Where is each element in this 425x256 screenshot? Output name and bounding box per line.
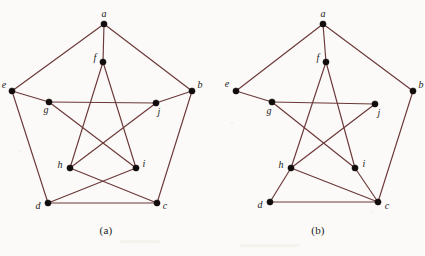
graph-edge-ab: [323, 24, 413, 91]
graph-vertex-label-h: h: [58, 159, 63, 170]
caption-b: (b): [212, 224, 424, 236]
graph-b-edges: [236, 24, 413, 202]
graph-edge-af: [103, 24, 104, 62]
graph-edge-gj: [49, 102, 156, 103]
graph-vertex-label-f: f: [317, 52, 321, 63]
graph-edge-fi: [103, 62, 136, 168]
graph-vertex-label-a: a: [102, 8, 107, 19]
graph-vertex-label-a: a: [321, 8, 326, 19]
graph-vertex-i: [133, 165, 139, 171]
graph-a-vertices: [9, 21, 195, 206]
graph-edge-ae: [12, 24, 104, 91]
graph-vertex-e: [233, 88, 239, 94]
graph-vertex-d: [267, 199, 273, 205]
graph-vertex-label-g: g: [44, 104, 49, 115]
graph-vertex-label-b: b: [198, 79, 203, 90]
graph-vertex-label-j: j: [156, 106, 161, 117]
graph-edge-di: [48, 168, 136, 203]
graph-edge-bc: [378, 91, 413, 202]
graph-a-edges: [12, 24, 192, 203]
graph-edge-ch: [291, 168, 378, 202]
graph-vertex-label-d: d: [36, 200, 42, 211]
graph-edge-ch: [70, 168, 157, 203]
graph-edge-fh: [70, 62, 103, 168]
graph-vertex-b: [189, 88, 195, 94]
graph-vertex-h: [67, 165, 73, 171]
graph-vertex-a: [101, 21, 107, 27]
graph-vertex-b: [410, 88, 416, 94]
graph-vertex-label-c: c: [385, 200, 390, 211]
graph-edge-dh: [270, 168, 291, 202]
figure-page: abcdefghij (a) abcdefghij (b): [0, 0, 425, 256]
graph-edge-ae: [236, 24, 323, 91]
graph-edge-eg: [236, 91, 272, 102]
graph-vertex-label-i: i: [143, 158, 146, 169]
graph-b-drawing: abcdefghij: [212, 0, 424, 226]
graph-vertex-label-e: e: [225, 78, 230, 89]
graph-vertex-label-h: h: [279, 159, 284, 170]
caption-a: (a): [0, 224, 212, 236]
graph-edge-gj: [272, 102, 375, 104]
graph-edge-bc: [157, 91, 192, 203]
graph-a-drawing: abcdefghij: [0, 0, 212, 226]
graph-vertex-f: [100, 59, 106, 65]
graph-vertex-h: [288, 165, 294, 171]
graph-vertex-label-j: j: [376, 107, 381, 118]
graph-vertex-c: [375, 199, 381, 205]
graph-panel-b: abcdefghij (b): [212, 0, 424, 256]
graph-vertex-label-f: f: [94, 52, 98, 63]
graph-vertex-f: [323, 59, 329, 65]
graph-vertex-label-g: g: [267, 105, 272, 116]
graph-vertex-d: [45, 200, 51, 206]
graph-edge-gi: [272, 102, 355, 168]
graph-vertex-label-i: i: [363, 158, 366, 169]
graph-edge-eg: [12, 91, 49, 102]
graph-vertex-a: [320, 21, 326, 27]
graph-vertex-c: [154, 200, 160, 206]
graph-vertex-label-b: b: [419, 79, 424, 90]
graph-edge-af: [323, 24, 326, 62]
graph-edge-bj: [156, 91, 192, 103]
graph-vertex-label-c: c: [163, 200, 168, 211]
graph-vertex-i: [352, 165, 358, 171]
graph-edge-fh: [291, 62, 326, 168]
graph-vertex-e: [9, 88, 15, 94]
graph-edge-fi: [326, 62, 355, 168]
graph-panel-a: abcdefghij (a): [0, 0, 212, 256]
graph-edge-ab: [104, 24, 192, 91]
graph-vertex-label-d: d: [258, 199, 264, 210]
graph-vertex-label-e: e: [2, 79, 7, 90]
